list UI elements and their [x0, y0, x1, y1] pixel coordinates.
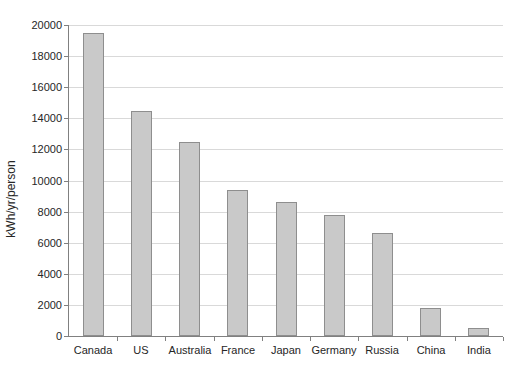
y-tick-label: 8000 [18, 206, 62, 218]
x-axis-line [68, 336, 503, 337]
bar-france [227, 190, 248, 336]
x-tick-mark [165, 337, 166, 341]
bar-india [468, 328, 489, 336]
bar-canada [83, 33, 104, 336]
y-tick-label: 16000 [18, 81, 62, 93]
x-tick-mark [503, 337, 504, 341]
x-tick-mark [358, 337, 359, 341]
x-tick-mark [214, 337, 215, 341]
x-category-label: India [447, 344, 511, 357]
y-tick-label: 4000 [18, 268, 62, 280]
bar-chart-figure: kWh/yr/person 02000400060008000100001200… [0, 0, 517, 375]
y-axis-title: kWh/yr/person [4, 160, 18, 237]
y-tick-label: 0 [18, 330, 62, 342]
x-tick-mark [262, 337, 263, 341]
y-axis-line [68, 25, 69, 337]
y-tick-label: 6000 [18, 237, 62, 249]
y-tick-label: 18000 [18, 50, 62, 62]
bar-germany [324, 215, 345, 336]
x-tick-mark [310, 337, 311, 341]
x-tick-mark [407, 337, 408, 341]
y-tick-label: 2000 [18, 299, 62, 311]
bar-japan [276, 202, 297, 336]
y-tick-label: 12000 [18, 143, 62, 155]
gridline [69, 56, 503, 57]
y-tick-label: 14000 [18, 112, 62, 124]
x-tick-mark [117, 337, 118, 341]
bar-australia [179, 142, 200, 336]
bar-russia [372, 233, 393, 336]
bar-us [131, 111, 152, 336]
x-tick-mark [455, 337, 456, 341]
bar-china [420, 308, 441, 336]
gridline [69, 25, 503, 26]
y-tick-label: 10000 [18, 175, 62, 187]
gridline [69, 87, 503, 88]
y-tick-label: 20000 [18, 19, 62, 31]
